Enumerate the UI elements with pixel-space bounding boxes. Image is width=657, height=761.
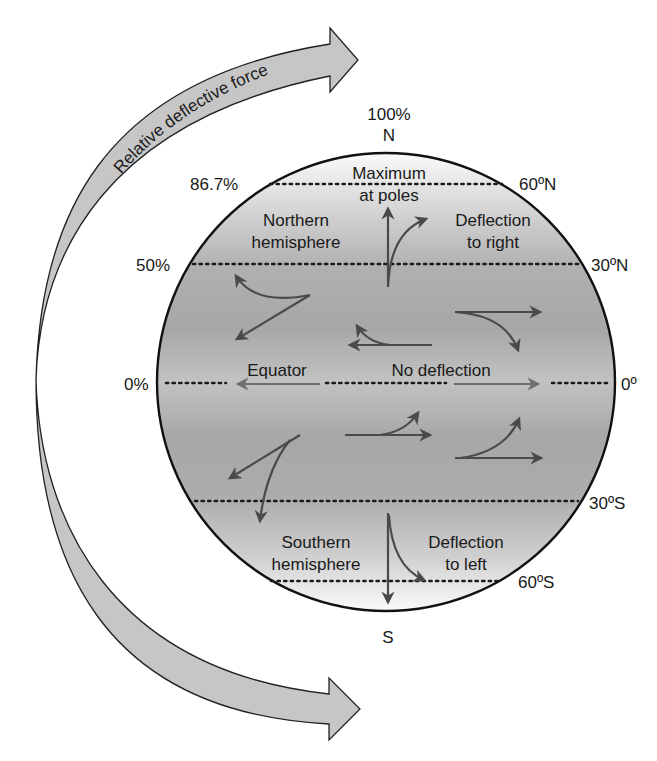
equator-label: Equator bbox=[247, 361, 307, 380]
lat-0-label: 0º bbox=[621, 375, 637, 394]
coriolis-diagram: Relative deflective force 100% N S 86.7%… bbox=[0, 0, 657, 761]
north-pole-label: N bbox=[383, 126, 395, 145]
southern-label-2: hemisphere bbox=[272, 555, 361, 574]
deflection-right-label-1: Deflection bbox=[455, 211, 531, 230]
percent-equator-label: 0% bbox=[124, 375, 149, 394]
deflection-left-label-1: Deflection bbox=[428, 533, 504, 552]
maximum-label-1: Maximum bbox=[352, 164, 426, 183]
percent-60-label: 86.7% bbox=[190, 175, 238, 194]
south-pole-label: S bbox=[382, 628, 393, 647]
southern-label-1: Southern bbox=[282, 533, 351, 552]
relative-force-label: Relative deflective force bbox=[110, 60, 271, 177]
deflection-right-label-2: to right bbox=[467, 233, 519, 252]
lat-30n-label: 30ºN bbox=[591, 256, 628, 275]
percent-30-label: 50% bbox=[136, 256, 170, 275]
maximum-label-2: at poles bbox=[359, 186, 419, 205]
pole-percent-label: 100% bbox=[367, 105, 410, 124]
lat-30s-label: 30ºS bbox=[589, 494, 625, 513]
lat-60s-label: 60ºS bbox=[518, 573, 554, 592]
no-deflection-label: No deflection bbox=[391, 361, 490, 380]
deflection-left-label-2: to left bbox=[445, 555, 487, 574]
northern-label-1: Northern bbox=[263, 211, 329, 230]
northern-label-2: hemisphere bbox=[252, 233, 341, 252]
lat-60n-label: 60ºN bbox=[519, 175, 556, 194]
